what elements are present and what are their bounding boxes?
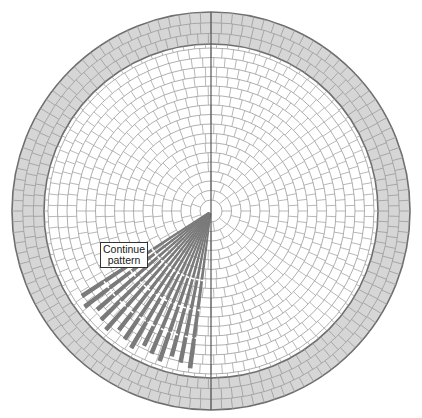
continue-pattern-label: Continue pattern xyxy=(100,242,148,268)
label-line-2: pattern xyxy=(101,255,147,266)
circular-paver-diagram xyxy=(0,0,422,418)
